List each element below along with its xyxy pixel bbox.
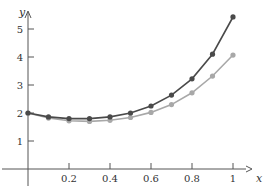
data-point-lower <box>210 73 215 78</box>
series-line-upper <box>28 17 233 119</box>
data-point-upper <box>107 114 112 119</box>
y-tick-label: 5 <box>17 24 23 35</box>
data-point-upper <box>25 110 30 115</box>
x-tick-label: 0.8 <box>184 173 200 184</box>
data-point-upper <box>46 114 51 119</box>
x-axis-arrow-icon <box>246 166 252 172</box>
x-axis-label: x <box>256 172 263 185</box>
y-axis-label: y <box>18 6 26 19</box>
y-tick-label: 3 <box>17 80 23 91</box>
data-point-upper <box>230 14 235 19</box>
y-tick-label: 2 <box>17 108 23 119</box>
data-point-lower <box>189 90 194 95</box>
data-point-upper <box>169 92 174 97</box>
data-point-upper <box>87 116 92 121</box>
y-tick-label: 4 <box>17 52 23 63</box>
x-tick-label: 1 <box>230 173 236 184</box>
data-point-lower <box>128 115 133 120</box>
series-group <box>25 14 235 124</box>
x-tick-label: 0.6 <box>143 173 159 184</box>
data-point-upper <box>210 52 215 57</box>
data-point-upper <box>189 76 194 81</box>
data-point-upper <box>148 103 153 108</box>
x-tick-label: 0.4 <box>102 173 118 184</box>
y-tick-label: 1 <box>17 136 23 147</box>
line-chart: 0.20.40.60.8112345xy <box>0 0 268 190</box>
x-tick-label: 0.2 <box>61 173 77 184</box>
data-point-lower <box>148 110 153 115</box>
data-point-lower <box>169 102 174 107</box>
data-point-upper <box>66 116 71 121</box>
data-point-upper <box>128 110 133 115</box>
data-point-lower <box>230 52 235 57</box>
